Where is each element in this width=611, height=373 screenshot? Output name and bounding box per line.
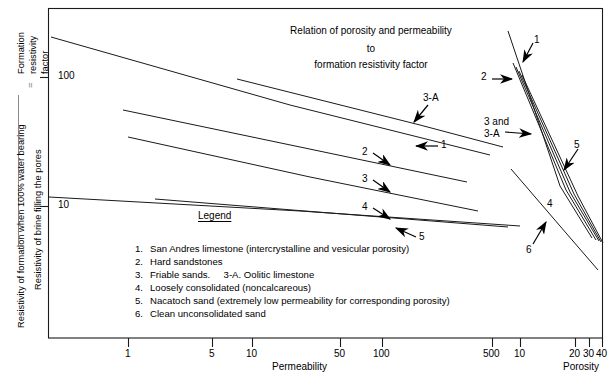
- x-axis-name-porosity: Porosity: [563, 362, 599, 373]
- legend-item-3-number: 3.: [135, 270, 143, 280]
- curve-poro-6: [511, 169, 598, 270]
- curve-tag-perm-3A: 3-A: [423, 93, 439, 104]
- x-tick-label-perm-100: 100: [373, 349, 390, 360]
- curve-tag-perm-5: 5: [419, 232, 425, 243]
- curve-poro-4: [522, 75, 603, 243]
- x-axis-name-permeability: Permeability: [272, 362, 327, 373]
- legend-item-1-number: 1.: [135, 244, 143, 254]
- plot-frame: [49, 9, 603, 339]
- x-tick-label-poro-30: 30: [583, 349, 594, 360]
- chart-title-line-1: Relation of porosity and permeability: [266, 26, 476, 37]
- x-tick-label-perm-1: 1: [125, 349, 131, 360]
- curve-tag-perm-3: 3: [362, 174, 368, 185]
- leader-poro-3-and-3A: [505, 132, 531, 134]
- leader-perm-3A: [414, 105, 428, 122]
- leader-poro-5: [564, 149, 578, 170]
- curve-perm-3A: [237, 79, 503, 147]
- curve-tag-poro-4: 4: [547, 199, 553, 210]
- y-axis-ticks: [40, 78, 49, 207]
- y-tick-label-10: 10: [58, 200, 69, 211]
- figure-root: Formation resistivity factor = Resistivi…: [0, 0, 611, 373]
- porosity-leaders: [492, 43, 578, 244]
- legend-item-2-text: Hard sandstones: [150, 257, 223, 267]
- curve-tag-perm-4: 4: [362, 202, 368, 213]
- x-tick-label-perm-5: 5: [209, 349, 215, 360]
- x-tick-label-poro-40: 40: [596, 349, 607, 360]
- curve-tag-perm-2: 2: [362, 147, 368, 158]
- legend-title: Legend: [198, 211, 231, 222]
- porosity-curves: [508, 31, 603, 270]
- leader-perm-5: [396, 228, 416, 237]
- x-tick-label-poro-10: 10: [514, 349, 525, 360]
- y-tick-label-100: 100: [58, 71, 75, 82]
- legend-item-1-text: San Andres limestone (intercrystalline a…: [150, 244, 409, 254]
- chart-title-line-3: formation resistivity factor: [266, 60, 476, 71]
- legend-item-5-number: 5.: [135, 296, 143, 306]
- leader-poro-6: [533, 222, 546, 244]
- legend-item-6-text: Clean unconsolidated sand: [150, 309, 266, 319]
- legend-item-2-number: 2.: [135, 257, 143, 267]
- curve-tag-poro-1: 1: [534, 35, 540, 46]
- legend-item-4-number: 4.: [135, 283, 143, 293]
- curve-tag-poro-6: 6: [526, 245, 532, 256]
- legend-item-6-number: 6.: [135, 309, 143, 319]
- leader-poro-1: [523, 43, 533, 62]
- legend-item-4-text: Loosely consolidated (noncalcareous): [150, 283, 311, 293]
- curve-tag-poro-5: 5: [574, 140, 580, 151]
- curve-tag-poro-3-and-3A-line2: 3-A: [484, 129, 500, 140]
- plot-vector-layer: [0, 0, 611, 373]
- x-axis-ticks: [129, 338, 603, 347]
- curve-tag-poro-3-and-3A-line1: 3 and: [484, 117, 509, 128]
- legend-item-3-text: Friable sands. 3-A. Oolitic limestone: [150, 270, 314, 280]
- chart-title-line-2: to: [266, 44, 476, 55]
- x-tick-label-perm-10: 10: [246, 349, 257, 360]
- x-tick-label-poro-20: 20: [569, 349, 580, 360]
- curve-perm-5: [49, 197, 520, 226]
- legend-item-5-text: Nacatoch sand (extremely low permeabilit…: [150, 296, 450, 306]
- curve-tag-poro-2: 2: [481, 72, 487, 83]
- x-tick-label-perm-500: 500: [483, 349, 500, 360]
- x-tick-label-perm-50: 50: [334, 349, 345, 360]
- curve-tag-perm-1: 1: [441, 140, 447, 151]
